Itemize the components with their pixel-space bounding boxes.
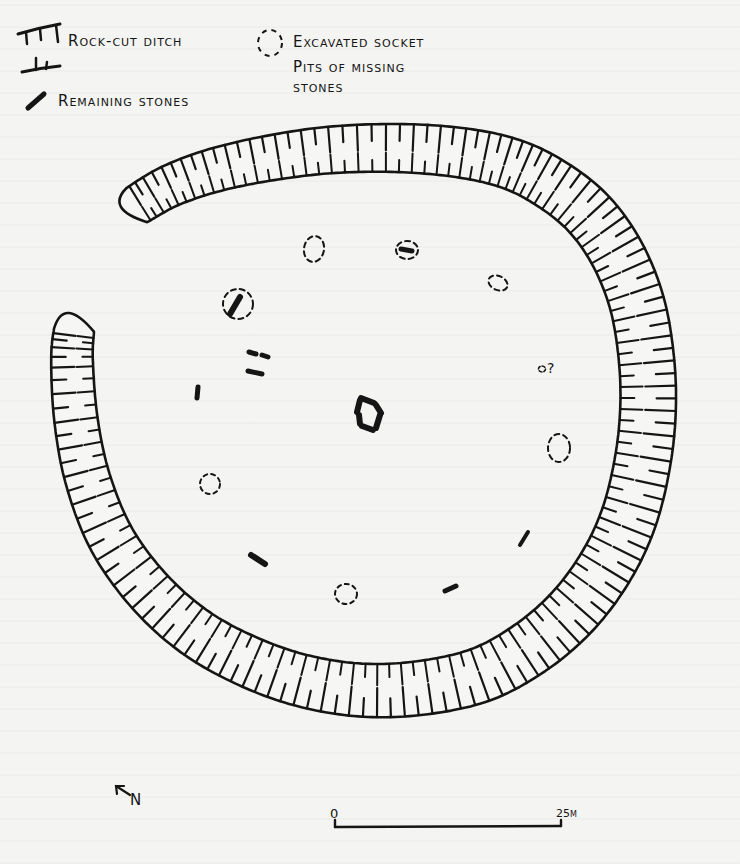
scale-bar (335, 820, 561, 827)
interior-features (197, 234, 570, 604)
site-plan-page: Rock-cut ditch Excavated socket Pits of … (0, 0, 740, 864)
scale-start-label: 0 (330, 805, 338, 822)
legend-socket-symbol (258, 30, 282, 56)
legend-label-remaining-stones: Remaining stones (58, 93, 189, 110)
stone (520, 532, 528, 545)
scale-end-label: 25m (556, 805, 577, 822)
legend-label-pits-line1: Pits of missing (293, 59, 405, 76)
stone (197, 387, 198, 398)
socket (335, 584, 357, 604)
legend-label-pits-line2: stones (293, 79, 344, 96)
stone (249, 352, 256, 354)
stone (248, 371, 262, 374)
uncertain-socket-mark: ? (547, 360, 555, 377)
site-plan-drawing (0, 0, 740, 864)
socket (548, 434, 570, 462)
legend-ditch-symbol (18, 24, 60, 72)
central-stone-setting (357, 398, 381, 430)
socket (302, 234, 326, 263)
rock-cut-ditch (51, 124, 676, 717)
legend-label-rock-cut-ditch: Rock-cut ditch (68, 33, 182, 50)
stone (445, 586, 456, 591)
north-arrow-icon (116, 786, 130, 795)
north-label: N (130, 792, 142, 809)
socket (200, 474, 220, 494)
legend-stone-symbol (28, 94, 44, 108)
legend-label-excavated-socket: Excavated socket (293, 34, 424, 51)
stone (251, 555, 265, 564)
socket (486, 272, 510, 293)
stone (262, 355, 268, 357)
socket-uncertain (539, 366, 546, 372)
